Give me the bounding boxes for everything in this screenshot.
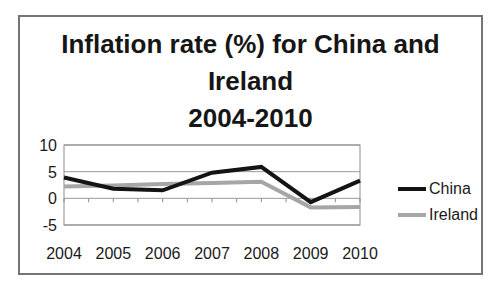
- chart-title-line-1: Inflation rate (%) for China and: [20, 26, 481, 63]
- x-tick-label: 2004: [46, 245, 82, 262]
- x-tick-label: 2010: [342, 245, 378, 262]
- x-tick-label: 2009: [293, 245, 329, 262]
- chart-title: Inflation rate (%) for China and Ireland…: [20, 26, 481, 137]
- legend-label-ireland: Ireland: [429, 206, 478, 223]
- chart-title-line-2: Ireland: [20, 63, 481, 100]
- x-tick-label: 2008: [244, 245, 280, 262]
- x-tick-label: 2007: [194, 245, 230, 262]
- legend-label-china: China: [429, 180, 471, 197]
- chart-title-line-3: 2004-2010: [20, 100, 481, 137]
- y-tick-label: 0: [48, 190, 57, 207]
- x-tick-label: 2005: [96, 245, 132, 262]
- chart-frame: 1050-52004200520062007200820092010ChinaI…: [18, 15, 483, 275]
- y-tick-label: 10: [39, 137, 57, 154]
- x-tick-label: 2006: [145, 245, 181, 262]
- y-tick-label: 5: [48, 164, 57, 181]
- y-tick-label: -5: [43, 217, 57, 234]
- page: 1050-52004200520062007200820092010ChinaI…: [0, 0, 497, 293]
